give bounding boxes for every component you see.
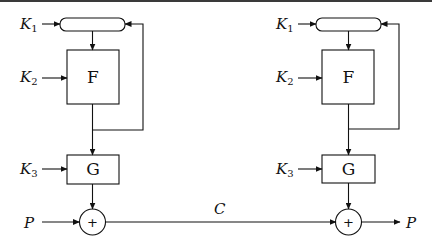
- channel-c-label: C: [214, 200, 226, 218]
- left-xor-symbol: +: [87, 215, 98, 230]
- left-p-label: P: [23, 214, 35, 232]
- left-k1-label: K1: [19, 15, 38, 34]
- left-g-label: G: [86, 159, 100, 179]
- right-f-label: F: [343, 67, 355, 87]
- right-g-label: G: [342, 159, 356, 179]
- left-feedback-arrow: [93, 24, 144, 130]
- left-k2-label: K2: [19, 68, 38, 87]
- left-stage: K1 F K2 G K3 + P: [19, 15, 143, 235]
- right-k1-label: K1: [275, 15, 294, 34]
- left-k3-label: K3: [19, 160, 38, 179]
- right-xor-symbol: +: [343, 215, 354, 230]
- cipher-diagram: K1 F K2 G K3 + P C K1: [0, 0, 432, 247]
- right-k2-label: K2: [275, 68, 294, 87]
- right-p-label: P: [405, 214, 417, 232]
- left-f-label: F: [87, 67, 99, 87]
- right-stage: K1 F K2 G K3 + P: [275, 15, 417, 235]
- right-register: [316, 18, 381, 31]
- right-k3-label: K3: [275, 160, 294, 179]
- channel: C: [106, 200, 337, 222]
- left-register: [60, 18, 125, 31]
